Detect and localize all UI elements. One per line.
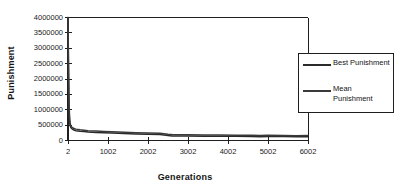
y-tick-label: 2500000 — [18, 59, 63, 68]
x-tick-label: 2002 — [128, 147, 168, 156]
x-tick-label: 2 — [48, 147, 88, 156]
series-line — [68, 18, 308, 136]
x-tick-label: 5002 — [248, 147, 288, 156]
legend-line-swatch-icon — [303, 64, 331, 66]
legend-label: Best Punishment — [333, 58, 393, 68]
y-tick-label: 4000000 — [18, 13, 63, 22]
x-tick-label: 1002 — [88, 147, 128, 156]
x-axis-title-text: Generations — [158, 172, 213, 182]
y-tick-label: 2000000 — [18, 74, 63, 83]
y-tick-label: 500000 — [18, 120, 63, 129]
y-tick-label: 0 — [18, 136, 63, 145]
y-tick-label: 3500000 — [18, 28, 63, 37]
y-tick-label: 3000000 — [18, 43, 63, 52]
legend-line-swatch-icon — [303, 90, 331, 92]
y-axis-title-text: Punishment — [6, 46, 16, 100]
y-tick-label: 1500000 — [18, 89, 63, 98]
plot-frame — [68, 18, 308, 141]
x-tick-label: 4002 — [208, 147, 248, 156]
x-tick-label: 6002 — [288, 147, 328, 156]
series-line — [68, 18, 308, 137]
legend-label: Mean Punishment — [333, 84, 393, 103]
chart-legend: Best Punishment Mean Punishment — [298, 53, 394, 113]
x-tick-label: 3002 — [168, 147, 208, 156]
tick-marks — [65, 18, 309, 145]
legend-entry-best-punishment: Best Punishment — [303, 59, 393, 83]
legend-entry-mean-punishment: Mean Punishment — [303, 85, 393, 109]
y-tick-label: 1000000 — [18, 105, 63, 114]
series-lines — [68, 18, 308, 137]
punishment-vs-generations-chart: Punishment Generations 05000001000000150… — [0, 0, 398, 190]
x-axis-title: Generations — [60, 166, 310, 184]
